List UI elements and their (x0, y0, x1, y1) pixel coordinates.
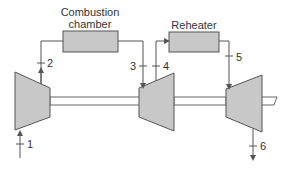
reheater-label: Reheater (171, 19, 217, 31)
state-1-label: 1 (27, 138, 33, 150)
reheater (169, 32, 219, 52)
state-5-label: 5 (236, 51, 242, 63)
combustion-chamber-label-1: Combustion (61, 6, 120, 18)
hp-turbine (139, 73, 174, 131)
lp-turbine (226, 75, 262, 132)
gas-turbine-diagram: Combustion chamber Reheater 1 2 3 4 5 6 (0, 0, 289, 171)
pipe-5 (219, 41, 229, 87)
state-6-label: 6 (260, 140, 266, 152)
state-4-label: 4 (163, 60, 169, 72)
state-2-label: 2 (47, 57, 53, 69)
compressor (15, 72, 50, 130)
state-3-label: 3 (130, 60, 136, 72)
combustion-chamber (63, 31, 118, 52)
combustion-chamber-label-2: chamber (69, 18, 112, 30)
